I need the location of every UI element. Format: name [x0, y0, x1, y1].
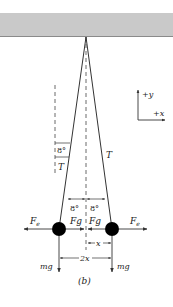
- distance-x-label: x: [96, 239, 101, 248]
- right-charged-sphere: [105, 222, 119, 236]
- right-weight-label: mg: [117, 262, 130, 271]
- tension-label-right: T: [106, 150, 113, 160]
- tension-label-left: T: [58, 162, 65, 172]
- two-charged-spheres-diagram: 8° T T 8° 8° Fe Fg Fg Fe mg mg x 2x +y +…: [0, 0, 173, 307]
- right-tension-arrow: [100, 132, 108, 190]
- distance-2x-label: 2x: [79, 254, 90, 263]
- left-tension-arrow: [64, 132, 72, 190]
- left-electric-force-label: Fe: [29, 216, 40, 227]
- ceiling: [0, 13, 173, 36]
- figure-caption: (b): [78, 276, 91, 286]
- left-charged-sphere: [52, 222, 66, 236]
- left-weight-label: mg: [40, 262, 53, 271]
- left-gravity-force-label: Fg: [69, 216, 82, 226]
- angle-label-middle-right: 8°: [90, 204, 99, 213]
- y-axis-label: +y: [142, 90, 154, 99]
- angle-label-middle-left: 8°: [70, 204, 79, 213]
- angle-label-left-top: 8°: [57, 146, 66, 155]
- x-axis-label: +x: [153, 109, 165, 118]
- right-string: [86, 37, 112, 229]
- right-gravity-force-label: Fg: [88, 216, 101, 226]
- right-electric-force-label: Fe: [129, 216, 140, 227]
- left-string: [59, 37, 86, 229]
